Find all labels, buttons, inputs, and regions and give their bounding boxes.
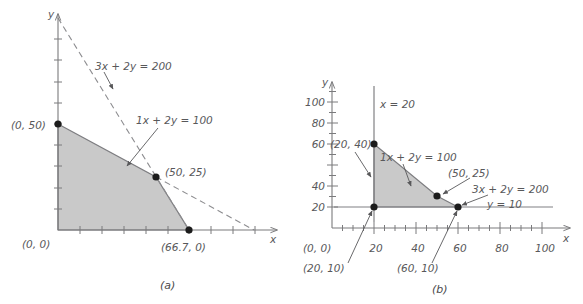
leader-vertex-20-40-b — [355, 152, 371, 177]
panel-b: y x 100 80 60 40 20 20 40 60 80 100 x = … — [303, 76, 570, 296]
leader-1x2y100-a — [127, 128, 158, 166]
figure-root: y x 3x + 2y = 200 1x + 2y = 100 (0, 50) … — [0, 0, 583, 304]
y-tick-label-100-b: 100 — [305, 96, 325, 108]
label-3x2y200-a: 3x + 2y = 200 — [95, 60, 172, 72]
caption-a: (a) — [160, 279, 175, 292]
label-y10-b: y = 10 — [486, 198, 522, 210]
y-tick-label-40-b: 40 — [312, 180, 326, 192]
label-origin-b: (0, 0) — [303, 242, 331, 254]
point-60-10-b — [454, 203, 461, 210]
point-66-7-0-a — [185, 226, 192, 233]
figure-canvas: y x 3x + 2y = 200 1x + 2y = 100 (0, 50) … — [0, 0, 583, 304]
x-tick-label-40-b: 40 — [411, 242, 425, 254]
leader-vertex-60-10-b — [432, 211, 457, 263]
label-vertex-66-7-0-a: (66.7, 0) — [161, 241, 206, 253]
label-vertex-0-0-a: (0, 0) — [22, 238, 50, 250]
x-tick-label-80-b: 80 — [495, 242, 509, 254]
y-axis-label-b: y — [321, 76, 329, 88]
caption-b: (b) — [432, 283, 448, 296]
label-3x2y200-b: 3x + 2y = 200 — [472, 183, 549, 195]
x-axis-label-b: x — [562, 232, 570, 244]
leader-3x2y200-b — [462, 195, 488, 205]
x-axis-label-a: x — [269, 233, 277, 245]
point-50-25-b — [433, 192, 440, 199]
y-axis-label-a: y — [47, 8, 55, 20]
label-vertex-20-10-b: (20, 10) — [303, 262, 345, 274]
label-vertex-50-25-a: (50, 25) — [165, 166, 207, 178]
point-0-50-a — [54, 120, 61, 127]
label-1x2y100-a: 1x + 2y = 100 — [136, 114, 213, 126]
panel-a: y x 3x + 2y = 200 1x + 2y = 100 (0, 50) … — [11, 8, 277, 292]
y-tick-label-20-b: 20 — [312, 201, 326, 213]
point-20-10-b — [370, 203, 377, 210]
label-1x2y100-b: 1x + 2y = 100 — [380, 151, 457, 163]
x-tick-label-100-b: 100 — [535, 242, 555, 254]
label-x20-b: x = 20 — [379, 98, 415, 110]
leader-vertex-20-10-b — [348, 211, 372, 263]
x-tick-label-60-b: 60 — [453, 242, 467, 254]
label-vertex-0-50-a: (0, 50) — [11, 119, 46, 131]
label-vertex-60-10-b: (60, 10) — [397, 262, 439, 274]
y-tick-label-60-b: 60 — [312, 138, 326, 150]
leader-vertex-50-25-b — [443, 178, 470, 194]
y-tick-label-80-b: 80 — [312, 117, 326, 129]
label-vertex-20-40-b: (20, 40) — [330, 138, 372, 150]
label-vertex-50-25-b: (50, 25) — [448, 167, 490, 179]
x-tick-label-20-b: 20 — [369, 242, 383, 254]
leader-3x2y200-a — [104, 72, 113, 89]
point-50-25-a — [152, 173, 159, 180]
